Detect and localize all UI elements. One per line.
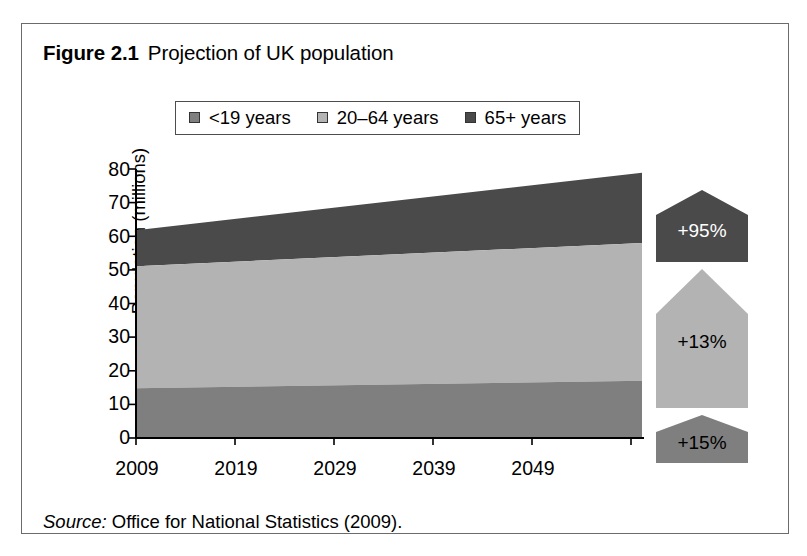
callout-label-growth-20-64: +13% — [677, 331, 726, 353]
callout-growth-20-64: +13% — [656, 269, 748, 408]
source-note: Source:Office for National Statistics (2… — [43, 511, 402, 533]
source-text: Office for National Statistics (2009). — [112, 511, 403, 532]
callout-label-growth-under19: +15% — [677, 432, 726, 454]
source-label: Source: — [43, 511, 107, 532]
callout-growth-65plus: +95% — [656, 190, 748, 262]
figure-frame: Figure 2.1Projection of UK population <1… — [21, 23, 789, 534]
callout-label-growth-65plus: +95% — [677, 220, 726, 242]
callout-growth-under19: +15% — [656, 415, 748, 463]
area-band-under19 — [136, 381, 642, 438]
y-axis-ticks — [129, 169, 136, 438]
area-band-20-64 — [136, 243, 642, 388]
x-axis-ticks — [136, 438, 631, 445]
